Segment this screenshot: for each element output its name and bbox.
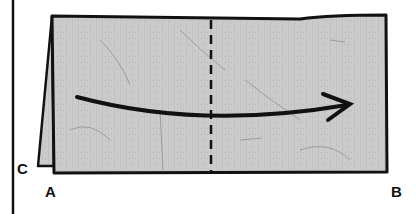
label-corner-c: C <box>17 161 28 176</box>
fold-diagram: C A B <box>0 0 416 214</box>
diagram-canvas <box>0 0 416 214</box>
paper-sheet <box>52 15 387 173</box>
label-corner-a: A <box>45 184 56 199</box>
label-corner-b: B <box>391 184 402 199</box>
